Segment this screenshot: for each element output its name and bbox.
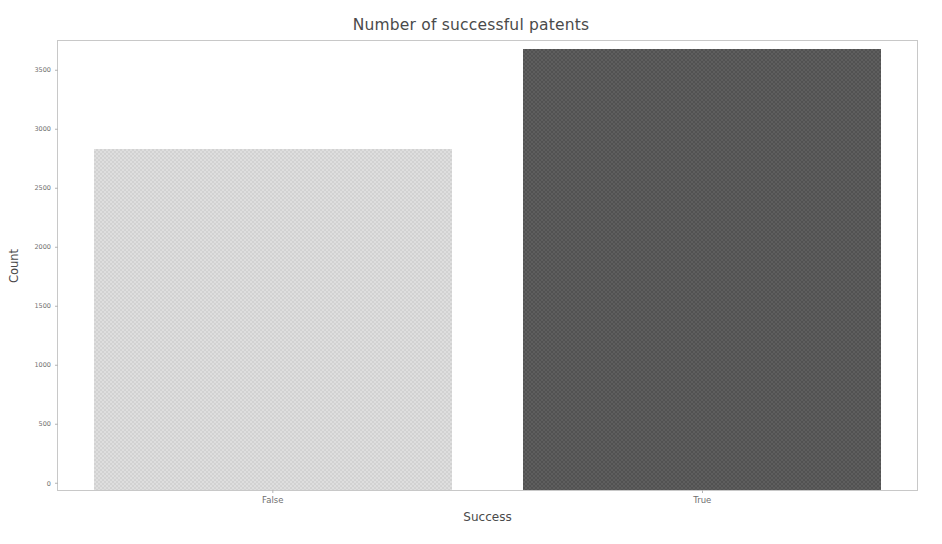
y-axis-tick: 3500: [34, 67, 58, 74]
bar-true: [523, 49, 881, 490]
y-axis-tick: 500: [39, 421, 58, 428]
y-axis-tick-label: 3000: [34, 126, 55, 133]
y-axis-tick: 1000: [34, 362, 58, 369]
x-axis-tick-label: True: [693, 493, 711, 505]
y-axis-tick-label: 500: [39, 421, 55, 428]
chart-figure: Number of successful patents Count 05001…: [0, 0, 942, 544]
plot-area: 0500100015002000250030003500FalseTrue: [57, 40, 918, 491]
y-axis-tick-mark: [55, 129, 58, 130]
y-axis-tick: 1500: [34, 303, 58, 310]
y-axis-tick: 2500: [34, 185, 58, 192]
x-axis-tick: True: [693, 490, 711, 505]
y-axis-tick-mark: [55, 247, 58, 248]
x-axis-tick-label: False: [262, 493, 283, 505]
y-axis-tick-label: 1000: [34, 362, 55, 369]
bar-false: [94, 149, 452, 490]
y-axis-tick-mark: [55, 69, 58, 70]
y-axis-tick-label: 3500: [34, 67, 55, 74]
y-axis-label-text: Count: [7, 248, 21, 282]
y-axis-tick: 2000: [34, 244, 58, 251]
y-axis-tick-label: 0: [47, 480, 55, 487]
x-axis-label: Success: [57, 510, 918, 524]
y-axis-tick: 0: [47, 480, 58, 487]
y-axis-tick-mark: [55, 188, 58, 189]
y-axis-label: Count: [6, 40, 22, 491]
y-axis-tick-label: 2000: [34, 244, 55, 251]
y-axis-tick: 3000: [34, 126, 58, 133]
y-axis-tick-mark: [55, 483, 58, 484]
y-axis-tick-mark: [55, 424, 58, 425]
y-axis-tick-mark: [55, 365, 58, 366]
x-axis-tick: False: [262, 490, 283, 505]
bars-layer: [58, 41, 917, 490]
y-axis-tick-label: 2500: [34, 185, 55, 192]
y-axis-tick-mark: [55, 306, 58, 307]
y-axis-tick-label: 1500: [34, 303, 55, 310]
chart-title: Number of successful patents: [0, 16, 942, 34]
